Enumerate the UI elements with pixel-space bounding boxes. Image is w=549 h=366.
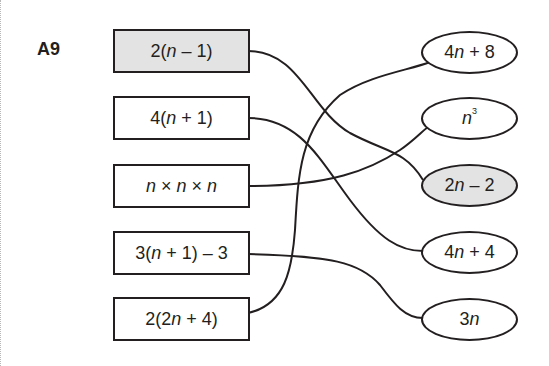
expression-text: 4n + 8 [444, 42, 495, 63]
connection-line [248, 62, 430, 313]
connection-line [248, 51, 423, 180]
left-expression-box[interactable]: 4(n + 1) [113, 96, 250, 140]
right-expression-ellipse[interactable]: n3 [421, 97, 518, 140]
connection-line [248, 124, 432, 186]
expression-text: n3 [462, 108, 477, 129]
expression-text: 4(n + 1) [150, 108, 213, 129]
left-expression-box[interactable]: 2(n – 1) [113, 29, 250, 73]
connection-line [248, 254, 423, 318]
right-expression-ellipse[interactable]: 2n – 2 [421, 164, 518, 207]
left-expression-box[interactable]: n × n × n [113, 164, 250, 208]
expression-text: 2n – 2 [444, 175, 494, 196]
right-expression-ellipse[interactable]: 4n + 8 [421, 31, 518, 74]
left-expression-box[interactable]: 2(2n + 4) [113, 297, 250, 341]
left-expression-box[interactable]: 3(n + 1) – 3 [113, 231, 250, 275]
expression-text: 3(n + 1) – 3 [135, 243, 228, 264]
expression-text: 3n [459, 309, 479, 330]
expression-text: n × n × n [146, 176, 217, 197]
right-expression-ellipse[interactable]: 3n [421, 298, 518, 341]
right-expression-ellipse[interactable]: 4n + 4 [421, 231, 518, 274]
expression-text: 2(n – 1) [150, 41, 212, 62]
expression-text: 2(2n + 4) [145, 309, 218, 330]
expression-text: 4n + 4 [444, 242, 495, 263]
